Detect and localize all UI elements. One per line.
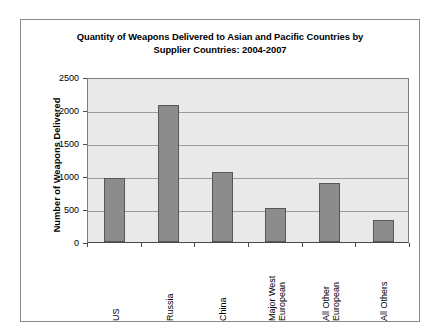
x-label-line: European (332, 282, 342, 321)
x-label-line: All Others (380, 281, 390, 321)
x-tick-mark-4 (302, 243, 303, 247)
y-tick-label-2000: 2000 (47, 107, 79, 116)
x-axis-label-major-west-european: Major WestEuropean (268, 276, 287, 321)
bar-all-others[interactable] (373, 220, 394, 242)
x-axis-label-all-other-european: All OtherEuropean (322, 282, 341, 321)
y-tick-label-1500: 1500 (47, 140, 79, 149)
gridline-500 (88, 211, 408, 212)
x-axis-label-all-others: All Others (380, 281, 390, 321)
x-tick-mark-2 (194, 243, 195, 247)
x-label-line: Russia (166, 293, 176, 321)
y-tick-label-2500: 2500 (47, 74, 79, 83)
bar-china[interactable] (212, 172, 233, 242)
x-label-line: US (112, 308, 122, 321)
chart-title-line-2: Supplier Countries: 2004-2007 (21, 44, 419, 57)
chart-title-line-1: Quantity of Weapons Delivered to Asian a… (21, 31, 419, 44)
gridline-1500 (88, 145, 408, 146)
chart-figure-frame: Quantity of Weapons Delivered to Asian a… (20, 19, 420, 322)
x-axis-label-us: US (112, 308, 122, 321)
gridline-2000 (88, 112, 408, 113)
x-tick-mark-6 (409, 243, 410, 247)
bar-all-other-european[interactable] (319, 183, 340, 242)
plot-area (87, 78, 409, 243)
x-label-line: China (219, 297, 229, 321)
y-tick-label-1000: 1000 (47, 173, 79, 182)
chart-title: Quantity of Weapons Delivered to Asian a… (21, 31, 419, 56)
y-tick-label-500: 500 (47, 206, 79, 215)
bar-us[interactable] (104, 178, 125, 242)
x-tick-mark-3 (248, 243, 249, 247)
y-tick-label-0: 0 (47, 239, 79, 248)
x-tick-mark-0 (87, 243, 88, 247)
bar-russia[interactable] (158, 105, 179, 242)
x-tick-mark-1 (141, 243, 142, 247)
x-label-line: European (278, 276, 288, 321)
gridline-1000 (88, 178, 408, 179)
bar-major-west-european[interactable] (265, 208, 286, 242)
x-axis-label-russia: Russia (166, 293, 176, 321)
x-axis-label-china: China (219, 297, 229, 321)
x-tick-mark-5 (355, 243, 356, 247)
